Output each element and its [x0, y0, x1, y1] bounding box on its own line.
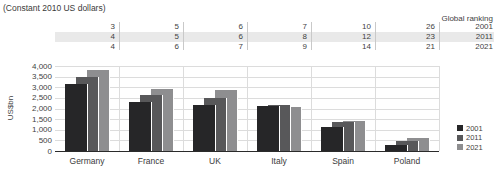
y-tick-label: 1,000	[10, 125, 52, 134]
rank-value: 12	[335, 32, 371, 42]
bar-germany-2001	[65, 84, 88, 151]
rank-value: 4	[79, 42, 115, 52]
bar-france-2001	[129, 102, 152, 151]
rank-value: 14	[335, 42, 371, 52]
column-gridline	[119, 66, 120, 151]
ranking-separator-line	[119, 22, 120, 50]
legend-swatch-2001	[457, 125, 463, 131]
column-gridline	[311, 66, 312, 151]
legend-item: 2001	[457, 124, 483, 133]
ranking-separator-line	[183, 22, 184, 50]
y-tick-label: 2,000	[10, 104, 52, 113]
rank-value: 6	[143, 42, 179, 52]
legend-swatch-2021	[457, 144, 463, 150]
ranking-separator-line	[439, 22, 440, 50]
legend-label: 2001	[466, 124, 483, 133]
rank-value: 4	[79, 32, 115, 42]
category-label: Poland	[375, 156, 439, 166]
y-tick-label: 1,500	[10, 115, 52, 124]
y-tick-label: 3,500	[10, 72, 52, 81]
rank-value: 8	[271, 32, 307, 42]
rank-value: 21	[399, 42, 435, 52]
legend-item: 2021	[457, 143, 483, 152]
rank-value: 7	[207, 42, 243, 52]
bar-spain-2001	[321, 127, 344, 151]
category-label: Italy	[247, 156, 311, 166]
legend-swatch-2011	[457, 135, 463, 141]
bar-uk-2001	[193, 105, 216, 151]
rank-value: 26	[399, 22, 435, 32]
column-gridline	[375, 66, 376, 151]
y-tick-label: 0	[10, 147, 52, 156]
y-tick-label: 4,000	[10, 62, 52, 71]
rank-value: 10	[335, 22, 371, 32]
y-tick-label: 500	[10, 136, 52, 145]
chart-layer: 3567102620014568122320114679142120210500…	[0, 0, 499, 175]
gdp-bar-chart-panel: (Constant 2010 US dollars) Global rankin…	[0, 0, 499, 175]
y-tick-label: 3,000	[10, 83, 52, 92]
category-label: Spain	[311, 156, 375, 166]
ranking-separator-line	[375, 22, 376, 50]
rank-value: 23	[399, 32, 435, 42]
rank-value: 5	[143, 32, 179, 42]
legend-label: 2021	[466, 143, 483, 152]
rank-value: 5	[143, 22, 179, 32]
rank-year-label: 2001	[449, 22, 493, 32]
rank-value: 3	[79, 22, 115, 32]
column-gridline	[247, 66, 248, 151]
rank-value: 7	[271, 22, 307, 32]
column-gridline	[439, 66, 440, 151]
y-tick-label: 2,500	[10, 93, 52, 102]
ranking-separator-line	[247, 22, 248, 50]
bar-italy-2001	[257, 106, 280, 151]
ranking-separator-line	[311, 22, 312, 50]
x-axis-line	[55, 151, 439, 152]
rank-value: 9	[271, 42, 307, 52]
column-gridline	[183, 66, 184, 151]
legend-label: 2011	[466, 133, 482, 142]
rank-year-label: 2021	[449, 42, 493, 52]
legend-item: 2011	[457, 133, 482, 142]
rank-value: 6	[207, 22, 243, 32]
rank-value: 6	[207, 32, 243, 42]
category-label: Germany	[55, 156, 119, 166]
category-label: France	[119, 156, 183, 166]
category-label: UK	[183, 156, 247, 166]
rank-year-label: 2011	[449, 32, 493, 42]
